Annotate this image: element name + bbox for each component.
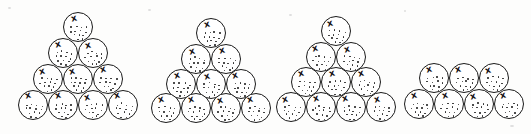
ball-speck <box>357 61 359 63</box>
ball-speck <box>53 86 55 88</box>
ball-speck <box>234 88 236 90</box>
ball-face: x <box>322 17 350 45</box>
ball-speck <box>51 89 53 91</box>
ball[interactable]: x <box>336 92 366 122</box>
ball-speck <box>70 26 72 28</box>
ball-speck <box>356 114 358 116</box>
ball-face: x <box>465 90 493 118</box>
ball-speck <box>56 79 58 81</box>
ball-speck <box>513 103 515 105</box>
ball[interactable]: x <box>108 90 138 120</box>
ball-speck <box>433 77 435 79</box>
ball-speck <box>363 94 365 96</box>
ball-x-mark-icon: x <box>99 65 107 73</box>
ball-speck <box>173 112 175 114</box>
ball[interactable]: x <box>494 89 524 119</box>
ball-face: x <box>277 93 305 121</box>
ball[interactable]: x <box>181 93 211 123</box>
ball[interactable]: x <box>78 90 108 120</box>
ball-speck <box>183 88 185 90</box>
ball-speck <box>213 37 215 39</box>
ball-speck <box>179 95 181 97</box>
ball-speck <box>185 82 187 84</box>
ball-speck <box>384 119 386 121</box>
ball-speck <box>193 111 195 113</box>
ball-speck <box>219 32 221 34</box>
ball-speck <box>446 108 448 110</box>
ball-speck <box>501 83 503 85</box>
ball-speck <box>44 85 46 87</box>
ball-speck <box>294 110 296 112</box>
ball-speck <box>484 112 486 114</box>
ball[interactable]: x <box>276 92 306 122</box>
ball-speck <box>493 86 495 88</box>
ball-speck <box>240 96 242 98</box>
ball-speck <box>75 77 77 79</box>
ball[interactable]: x <box>366 92 396 122</box>
ball-speck <box>346 114 348 116</box>
ball-speck <box>76 89 78 91</box>
ball-speck <box>188 111 190 113</box>
ball-speck <box>447 103 449 105</box>
ball-speck <box>263 112 265 114</box>
ball[interactable]: x <box>306 92 336 122</box>
scan-noise-mark <box>8 7 11 9</box>
ball-face: x <box>182 94 210 122</box>
ball-speck <box>328 35 330 37</box>
ball-speck <box>440 108 442 110</box>
ball[interactable]: x <box>241 93 271 123</box>
ball-speck <box>442 77 444 79</box>
ball-speck <box>465 86 467 88</box>
ball-speck <box>417 103 419 105</box>
ball-speck <box>119 108 121 110</box>
ball-face: x <box>212 94 240 122</box>
ball-speck <box>208 87 210 89</box>
ball-speck <box>335 41 337 43</box>
ball-speck <box>503 104 505 106</box>
ball-speck <box>472 104 474 106</box>
ball-speck <box>292 113 294 115</box>
ball-speck <box>314 82 316 84</box>
ball-speck <box>470 86 472 88</box>
ball[interactable]: x <box>18 90 48 120</box>
ball[interactable]: x <box>434 89 464 119</box>
ball-speck <box>340 80 342 82</box>
ball-speck <box>117 113 119 115</box>
ball-speck <box>210 32 212 34</box>
ball-speck <box>349 119 351 121</box>
ball-speck <box>240 82 242 84</box>
ball-speck <box>329 111 331 113</box>
ball-speck <box>158 107 160 109</box>
ball-speck <box>91 104 93 106</box>
ball[interactable]: x <box>404 89 434 119</box>
ball-speck <box>338 85 340 87</box>
ball[interactable]: x <box>211 93 241 123</box>
ball-speck <box>116 78 118 80</box>
ball-speck <box>334 85 336 87</box>
ball-speck <box>311 90 313 92</box>
ball-x-mark-icon: x <box>344 45 352 53</box>
ball-speck <box>218 85 220 87</box>
ball-speck <box>426 81 428 83</box>
ball-speck <box>442 82 444 84</box>
ball-speck <box>86 105 88 107</box>
ball-speck <box>249 107 251 109</box>
ball-speck <box>511 106 513 108</box>
ball-speck <box>57 60 59 62</box>
ball-speck <box>331 37 333 39</box>
ball-speck <box>288 105 290 107</box>
ball-speck <box>354 106 356 108</box>
ball-x-mark-icon: x <box>297 69 305 77</box>
ball-speck <box>228 119 230 121</box>
ball-speck <box>352 64 354 66</box>
ball[interactable]: x <box>464 89 494 119</box>
ball-face: x <box>435 90 463 118</box>
ball-speck <box>202 68 204 70</box>
ball[interactable]: x <box>48 90 78 120</box>
ball-speck <box>190 58 192 60</box>
ball[interactable]: x <box>151 93 181 123</box>
ball-speck <box>411 108 413 110</box>
ball-face: x <box>94 65 122 93</box>
ball-speck <box>82 38 84 40</box>
ball-x-mark-icon: x <box>484 66 492 74</box>
